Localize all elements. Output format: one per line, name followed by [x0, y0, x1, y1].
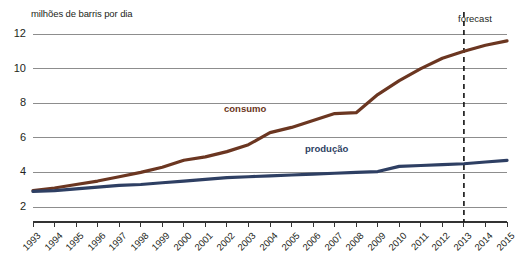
y-axis-title: milhões de barris por dia	[31, 8, 133, 19]
forecast-label: forecast	[458, 13, 492, 24]
oil-chart: milhões de barris por dia consumo produç…	[0, 0, 520, 274]
y-axis-tick-label: 10	[2, 62, 26, 74]
y-axis-tick-label: 4	[2, 165, 26, 177]
series-label-producao: produção	[305, 143, 348, 154]
series-lines	[33, 41, 507, 192]
y-axis-tick-label: 12	[2, 27, 26, 39]
y-axis-tick-label: 2	[2, 200, 26, 212]
x-axis-ticks	[33, 222, 507, 227]
series-label-consumo: consumo	[224, 103, 266, 114]
y-axis-tick-label: 8	[2, 96, 26, 108]
y-axis-tick-label: 6	[2, 131, 26, 143]
